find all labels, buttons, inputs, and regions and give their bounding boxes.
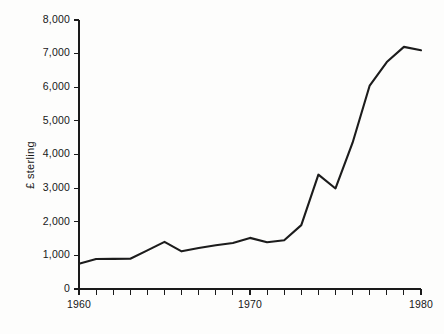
- y-axis-tick-labels: 8,0007,0006,0005,0004,0003,0002,0001,000…: [43, 13, 70, 294]
- line-chart: 8,0007,0006,0005,0004,0003,0002,0001,000…: [0, 0, 444, 334]
- y-tick-label: 8,000: [43, 13, 70, 25]
- x-tick-label: 1960: [67, 298, 91, 310]
- y-axis-title: £ sterling: [24, 141, 36, 189]
- y-tick-label: 5,000: [43, 114, 70, 126]
- y-tick-label: 2,000: [43, 215, 70, 227]
- y-tick-label: 0: [64, 282, 70, 294]
- y-tick-label: 4,000: [43, 147, 70, 159]
- y-tick-label: 3,000: [43, 181, 70, 193]
- y-tick-label: 1,000: [43, 248, 70, 260]
- x-tick-label: 1970: [238, 298, 262, 310]
- x-axis-tick-marks: [79, 289, 421, 295]
- x-tick-label: 1980: [409, 298, 433, 310]
- y-tick-label: 7,000: [43, 46, 70, 58]
- chart-figure: 8,0007,0006,0005,0004,0003,0002,0001,000…: [0, 0, 444, 334]
- x-axis-tick-labels: 196019701980: [67, 298, 433, 310]
- y-axis-tick-marks: [74, 20, 79, 289]
- y-tick-label: 6,000: [43, 80, 70, 92]
- data-series-line: [79, 47, 421, 264]
